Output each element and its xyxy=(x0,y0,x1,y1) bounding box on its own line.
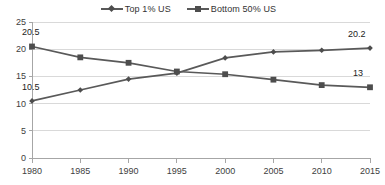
square-marker xyxy=(271,77,277,83)
diamond-marker xyxy=(222,55,228,61)
x-axis-tick-label: 1995 xyxy=(157,166,197,176)
y-axis-tick-label: 25 xyxy=(6,17,26,27)
diamond-marker xyxy=(77,87,83,93)
y-axis-tick-label: 20 xyxy=(6,44,26,54)
data-point-label: 20.2 xyxy=(348,29,366,39)
diamond-marker xyxy=(319,47,325,53)
x-axis-tick-label: 2005 xyxy=(253,166,293,176)
x-axis-tick-label: 1990 xyxy=(109,166,149,176)
series-top-1-percent xyxy=(29,45,373,103)
x-axis-tick-label: 1980 xyxy=(12,166,52,176)
x-axis-tick-label: 2015 xyxy=(350,166,385,176)
diamond-marker xyxy=(126,76,132,82)
data-point-label: 10.5 xyxy=(22,82,40,92)
square-marker xyxy=(319,82,325,88)
y-axis-tick-label: 15 xyxy=(6,71,26,81)
data-point-label: 20.5 xyxy=(22,27,40,37)
x-axis-tick-label: 2000 xyxy=(205,166,245,176)
square-marker xyxy=(222,71,228,77)
diamond-marker xyxy=(367,45,373,51)
x-axis-tick-label: 2010 xyxy=(302,166,342,176)
square-marker xyxy=(126,60,132,66)
square-marker xyxy=(29,44,35,50)
y-axis-tick-label: 5 xyxy=(6,126,26,136)
diamond-marker xyxy=(29,98,35,104)
x-axis-tick-label: 1985 xyxy=(60,166,100,176)
series-line xyxy=(32,46,370,87)
data-point-label: 13 xyxy=(353,68,363,78)
square-marker xyxy=(77,54,83,60)
diamond-marker xyxy=(271,49,277,55)
y-axis-tick-label: 10 xyxy=(6,99,26,109)
square-marker xyxy=(174,69,180,75)
y-axis-tick-label: 0 xyxy=(6,153,26,163)
square-marker xyxy=(367,84,373,90)
